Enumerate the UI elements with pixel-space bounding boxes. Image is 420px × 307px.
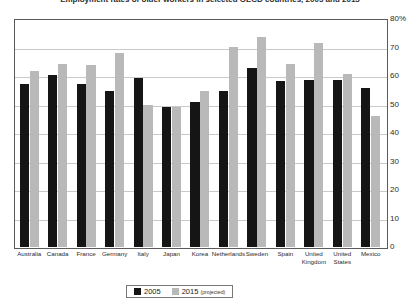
bar-group [72,20,100,247]
bar-2005 [361,88,370,247]
bar-2015 [343,74,352,247]
bar-2015 [286,64,295,247]
x-axis: AustraliaCanadaFranceGermanyItalyJapanKo… [15,250,385,272]
bar-group [300,20,328,247]
bar-2005 [134,78,143,247]
bar-group [100,20,128,247]
y-tick-label: 20 [390,186,399,194]
y-tick-label: 70 [390,44,399,52]
bar-group [15,20,43,247]
legend-swatch-2015-icon [172,288,179,295]
bar-2005 [190,102,199,247]
bar-2015 [172,107,181,247]
bar-2005 [48,75,57,247]
bars-layer [15,20,385,247]
bar-group [328,20,356,247]
legend-label-2015: 2015 (projected) [182,288,226,296]
bar-2015 [58,64,67,247]
legend-label-2005: 2005 [144,288,161,296]
y-tick-label: 80% [390,15,406,23]
legend-swatch-2005-icon [134,288,141,295]
x-tick-label: Mexico [354,250,388,258]
bar-2005 [219,91,228,247]
bar-2015 [257,37,266,247]
bar-2005 [162,107,171,247]
legend-entry-2005: 2005 [134,288,161,296]
bar-group [186,20,214,247]
bar-2015 [371,116,380,247]
bar-group [43,20,71,247]
chart-container: Employment rates of older workers in sel… [0,0,420,307]
y-tick-label: 30 [390,158,399,166]
bar-2015 [86,65,95,247]
bar-group [271,20,299,247]
bar-group [357,20,385,247]
bar-2015 [200,91,209,247]
y-tick-label: 10 [390,215,399,223]
y-tick-label: 40 [390,129,399,137]
bar-2015 [115,53,124,247]
y-axis: 80%706050403020100 [390,19,420,247]
chart-title: Employment rates of older workers in sel… [0,0,420,5]
bar-2005 [304,80,313,247]
bar-group [243,20,271,247]
bar-2015 [143,105,152,247]
chart-legend: 2005 2015 (projected) [126,285,233,298]
y-tick-label: 0 [390,243,394,251]
bar-2015 [30,71,39,247]
legend-entry-2015: 2015 (projected) [172,288,226,296]
bar-2015 [229,47,238,247]
bar-group [157,20,185,247]
y-tick-label: 60 [390,72,399,80]
bar-2005 [333,80,342,247]
y-tick-label: 50 [390,101,399,109]
bar-2005 [276,81,285,247]
bar-2005 [77,84,86,247]
bar-group [214,20,242,247]
bar-2015 [314,43,323,247]
bar-group [129,20,157,247]
bar-2005 [20,84,29,247]
bar-2005 [105,91,114,247]
bar-2005 [247,68,256,247]
